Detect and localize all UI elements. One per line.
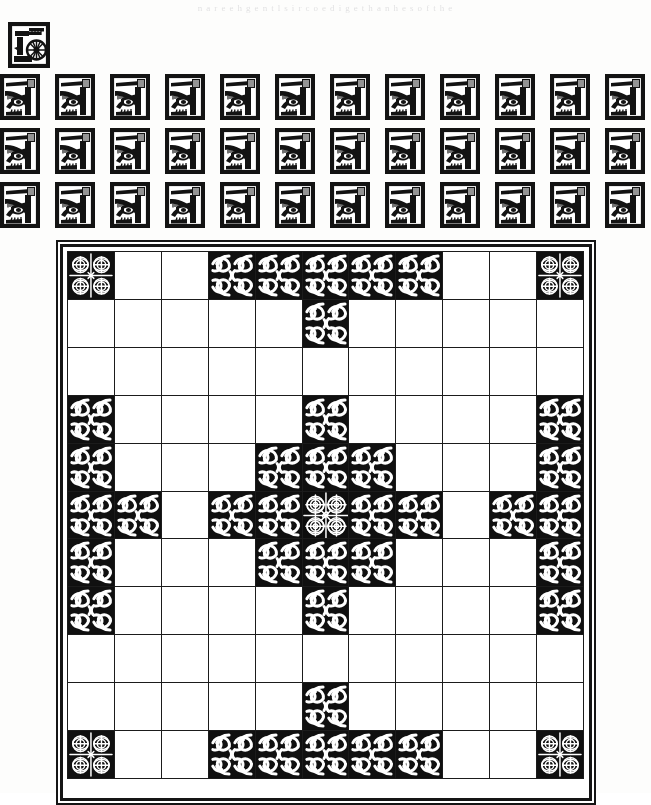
board-square-empty[interactable] bbox=[396, 300, 443, 348]
board-square-empty[interactable] bbox=[490, 539, 537, 587]
board-square-empty[interactable] bbox=[349, 300, 396, 348]
board-square-empty[interactable] bbox=[209, 635, 256, 683]
board-square-empty[interactable] bbox=[256, 635, 303, 683]
board-square-empty[interactable] bbox=[256, 348, 303, 396]
board-square-empty[interactable] bbox=[396, 683, 443, 731]
board-square-empty[interactable] bbox=[115, 396, 162, 444]
board-square-empty[interactable] bbox=[443, 683, 490, 731]
board-square-empty[interactable] bbox=[162, 444, 209, 492]
board-square-empty[interactable] bbox=[256, 396, 303, 444]
board-square-empty[interactable] bbox=[162, 731, 209, 779]
board-square-defender[interactable] bbox=[303, 587, 350, 635]
board-square-empty[interactable] bbox=[256, 683, 303, 731]
board-square-empty[interactable] bbox=[162, 252, 209, 300]
board-square-attacker[interactable] bbox=[303, 300, 350, 348]
board-square-attacker[interactable] bbox=[209, 731, 256, 779]
board-square-empty[interactable] bbox=[490, 396, 537, 444]
board-square-empty[interactable] bbox=[443, 252, 490, 300]
board-square-empty[interactable] bbox=[303, 348, 350, 396]
board-square-attacker[interactable] bbox=[396, 731, 443, 779]
board-square-empty[interactable] bbox=[303, 635, 350, 683]
board-square-empty[interactable] bbox=[396, 635, 443, 683]
board-square-attacker[interactable] bbox=[68, 492, 115, 540]
hnefatafl-board[interactable] bbox=[56, 240, 596, 805]
board-square-empty[interactable] bbox=[115, 539, 162, 587]
board-square-empty[interactable] bbox=[490, 731, 537, 779]
board-square-empty[interactable] bbox=[209, 396, 256, 444]
board-square-attacker[interactable] bbox=[537, 492, 584, 540]
board-square-empty[interactable] bbox=[537, 635, 584, 683]
board-square-empty[interactable] bbox=[443, 300, 490, 348]
board-square-attacker[interactable] bbox=[256, 731, 303, 779]
board-square-empty[interactable] bbox=[349, 683, 396, 731]
board-square-empty[interactable] bbox=[443, 539, 490, 587]
board-square-defender[interactable] bbox=[256, 444, 303, 492]
board-square-corner[interactable] bbox=[68, 252, 115, 300]
board-square-throne[interactable] bbox=[303, 492, 350, 540]
board-square-attacker[interactable] bbox=[68, 396, 115, 444]
board-square-attacker[interactable] bbox=[68, 444, 115, 492]
board-square-empty[interactable] bbox=[115, 683, 162, 731]
board-square-empty[interactable] bbox=[68, 348, 115, 396]
board-square-empty[interactable] bbox=[443, 348, 490, 396]
board-square-attacker[interactable] bbox=[537, 539, 584, 587]
board-square-corner[interactable] bbox=[68, 731, 115, 779]
board-square-attacker[interactable] bbox=[537, 444, 584, 492]
board-square-attacker[interactable] bbox=[68, 539, 115, 587]
board-square-defender[interactable] bbox=[256, 492, 303, 540]
board-square-empty[interactable] bbox=[490, 252, 537, 300]
board-square-attacker[interactable] bbox=[303, 683, 350, 731]
board-square-empty[interactable] bbox=[396, 444, 443, 492]
board-square-attacker[interactable] bbox=[209, 252, 256, 300]
board-square-defender[interactable] bbox=[396, 492, 443, 540]
board-square-empty[interactable] bbox=[490, 587, 537, 635]
board-square-empty[interactable] bbox=[162, 539, 209, 587]
board-square-empty[interactable] bbox=[490, 300, 537, 348]
board-square-defender[interactable] bbox=[349, 539, 396, 587]
board-square-attacker[interactable] bbox=[490, 492, 537, 540]
board-square-empty[interactable] bbox=[396, 587, 443, 635]
board-square-defender[interactable] bbox=[303, 444, 350, 492]
board-square-empty[interactable] bbox=[490, 635, 537, 683]
board-square-empty[interactable] bbox=[490, 683, 537, 731]
board-square-empty[interactable] bbox=[490, 444, 537, 492]
board-square-empty[interactable] bbox=[443, 444, 490, 492]
board-square-empty[interactable] bbox=[396, 348, 443, 396]
board-square-attacker[interactable] bbox=[115, 492, 162, 540]
board-square-empty[interactable] bbox=[349, 396, 396, 444]
board-square-empty[interactable] bbox=[349, 348, 396, 396]
board-square-defender[interactable] bbox=[209, 492, 256, 540]
board-square-empty[interactable] bbox=[162, 635, 209, 683]
board-square-empty[interactable] bbox=[443, 492, 490, 540]
board-square-attacker[interactable] bbox=[256, 252, 303, 300]
board-square-empty[interactable] bbox=[443, 635, 490, 683]
board-square-empty[interactable] bbox=[443, 396, 490, 444]
board-square-corner[interactable] bbox=[537, 731, 584, 779]
board-square-empty[interactable] bbox=[256, 587, 303, 635]
board-square-empty[interactable] bbox=[349, 587, 396, 635]
board-square-empty[interactable] bbox=[162, 492, 209, 540]
board-square-empty[interactable] bbox=[396, 539, 443, 587]
board-square-empty[interactable] bbox=[68, 683, 115, 731]
board-square-attacker[interactable] bbox=[349, 731, 396, 779]
board-square-empty[interactable] bbox=[490, 348, 537, 396]
board-square-empty[interactable] bbox=[68, 300, 115, 348]
board-square-attacker[interactable] bbox=[537, 587, 584, 635]
board-square-empty[interactable] bbox=[443, 587, 490, 635]
board-square-empty[interactable] bbox=[209, 444, 256, 492]
board-square-attacker[interactable] bbox=[349, 252, 396, 300]
board-grid[interactable] bbox=[67, 251, 584, 779]
board-square-empty[interactable] bbox=[209, 539, 256, 587]
board-square-empty[interactable] bbox=[115, 444, 162, 492]
board-square-attacker[interactable] bbox=[303, 731, 350, 779]
board-square-attacker[interactable] bbox=[537, 396, 584, 444]
board-square-corner[interactable] bbox=[537, 252, 584, 300]
board-square-defender[interactable] bbox=[349, 444, 396, 492]
board-square-empty[interactable] bbox=[115, 731, 162, 779]
board-square-empty[interactable] bbox=[115, 252, 162, 300]
board-square-empty[interactable] bbox=[162, 396, 209, 444]
board-square-empty[interactable] bbox=[209, 683, 256, 731]
board-square-defender[interactable] bbox=[303, 396, 350, 444]
board-square-empty[interactable] bbox=[162, 300, 209, 348]
board-square-empty[interactable] bbox=[68, 635, 115, 683]
